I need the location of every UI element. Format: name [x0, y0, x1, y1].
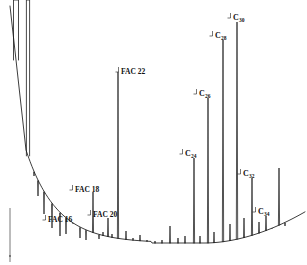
peak: [278, 168, 279, 226]
label-leader: [194, 89, 197, 94]
peak-c28: [222, 40, 223, 242]
peak: [60, 213, 61, 236]
peak: [259, 222, 260, 233]
baseline-curve: [10, 6, 305, 243]
peak: [66, 218, 67, 234]
peak: [38, 180, 39, 196]
peak: [126, 231, 127, 240]
peak-c26: [207, 98, 208, 243]
peak: [44, 192, 45, 214]
peak-traces: [14, 0, 286, 243]
label-leader: [88, 210, 91, 215]
label-leader: [238, 169, 241, 174]
peak: [140, 235, 141, 241]
peak-fac22: [117, 72, 118, 239]
baseline-trace: [10, 6, 305, 243]
solvent-peak-2: [26, 0, 29, 156]
y-axis-tick: [9, 255, 11, 257]
peak-c30: [236, 22, 237, 240]
peak: [86, 230, 87, 240]
label-leader: [253, 207, 256, 212]
chromatogram-figure: FAC 16FAC 18FAC 20FAC 22C24C26C28C30C32C…: [0, 0, 307, 265]
peak: [230, 224, 231, 241]
peak: [185, 236, 186, 243]
peak: [272, 228, 273, 229]
peak-fac18: [92, 192, 93, 233]
peak: [200, 236, 201, 243]
label-leader: [210, 31, 213, 36]
peak: [52, 203, 53, 228]
label-leader: [43, 215, 46, 220]
axis-group: [9, 13, 255, 262]
peak: [170, 226, 171, 243]
peak: [80, 227, 81, 238]
label-leader: [180, 149, 183, 154]
label-leader: [228, 13, 231, 18]
peak-c24: [193, 158, 194, 243]
label-leader: [116, 67, 119, 72]
peak: [214, 232, 215, 243]
peak-c34: [265, 216, 266, 231]
peak-fac20: [107, 218, 108, 237]
peak: [244, 218, 245, 238]
solvent-peak-1: [14, 0, 19, 60]
label-leader: [70, 185, 73, 190]
peak-fac16: [73, 223, 74, 224]
peak-c32: [251, 178, 252, 236]
peak: [285, 223, 286, 226]
peak: [99, 235, 100, 239]
chromatogram-plot: [0, 0, 307, 265]
peak: [147, 240, 148, 242]
